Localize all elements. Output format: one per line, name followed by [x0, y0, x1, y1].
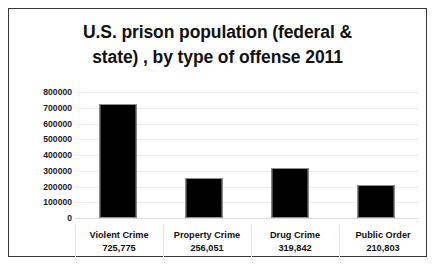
category-drug-crime: Drug Crime 319,842	[251, 225, 339, 254]
category-label-row: Violent Crime 725,775 Property Crime 256…	[9, 225, 428, 258]
bar-property-crime[interactable]	[186, 178, 223, 218]
bar-drug-crime[interactable]	[272, 168, 309, 218]
chart-frame: U.S. prison population (federal & state)…	[8, 8, 427, 257]
y-axis-tick-300000: 300000	[15, 166, 72, 175]
y-axis-tick-400000: 400000	[15, 151, 72, 160]
bar-slot-property-crime	[161, 92, 247, 218]
chart-title-line-2: state) , by type of offense 2011	[9, 45, 426, 70]
category-violent-crime: Violent Crime 725,775	[75, 225, 163, 254]
y-axis-tick-800000: 800000	[15, 88, 72, 97]
y-axis-tick-100000: 100000	[15, 198, 72, 207]
y-axis: 800000 700000 600000 500000 400000 30000…	[15, 92, 72, 218]
bar-public-order[interactable]	[358, 185, 395, 218]
chart-title: U.S. prison population (federal & state)…	[9, 20, 426, 70]
bar-slot-public-order	[333, 92, 419, 218]
plot-region: 800000 700000 600000 500000 400000 30000…	[9, 82, 428, 225]
y-axis-tick-0: 0	[15, 214, 72, 223]
gridline-baseline	[75, 218, 419, 219]
bar-slot-violent-crime	[75, 92, 161, 218]
category-label-drug-crime: Drug Crime	[251, 230, 339, 241]
category-value-public-order: 210,803	[339, 243, 427, 254]
y-axis-tick-500000: 500000	[15, 135, 72, 144]
chart-title-line-1: U.S. prison population (federal &	[9, 20, 426, 45]
plot-area	[75, 92, 419, 218]
y-axis-tick-600000: 600000	[15, 119, 72, 128]
category-property-crime: Property Crime 256,051	[163, 225, 251, 254]
category-label-violent-crime: Violent Crime	[75, 230, 163, 241]
category-label-public-order: Public Order	[339, 230, 427, 241]
category-label-property-crime: Property Crime	[163, 230, 251, 241]
bar-series	[75, 92, 419, 218]
category-value-property-crime: 256,051	[163, 243, 251, 254]
y-axis-tick-700000: 700000	[15, 103, 72, 112]
bar-violent-crime[interactable]	[100, 104, 137, 218]
bar-slot-drug-crime	[247, 92, 333, 218]
y-axis-tick-200000: 200000	[15, 182, 72, 191]
category-value-violent-crime: 725,775	[75, 243, 163, 254]
category-public-order: Public Order 210,803	[339, 225, 427, 254]
category-value-drug-crime: 319,842	[251, 243, 339, 254]
